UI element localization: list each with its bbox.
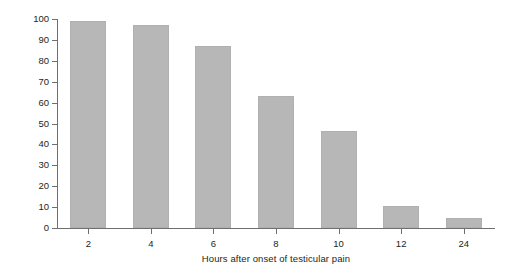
x-tick-mark xyxy=(339,229,340,234)
bar xyxy=(258,96,294,228)
y-tick-label: 60 xyxy=(38,96,49,109)
x-tick-label: 10 xyxy=(319,237,359,250)
plot-area: 0102030405060708090100 xyxy=(57,19,495,228)
bar-series xyxy=(57,19,495,228)
y-tick-label: 20 xyxy=(38,179,49,192)
y-tick-label: 30 xyxy=(38,158,49,171)
x-tick-mark xyxy=(464,229,465,234)
x-tick-label: 4 xyxy=(131,237,171,250)
x-tick-mark xyxy=(213,229,214,234)
y-tick-label: 50 xyxy=(38,117,49,130)
x-tick-mark xyxy=(151,229,152,234)
x-tick-mark xyxy=(401,229,402,234)
y-tick-label: 80 xyxy=(38,54,49,67)
x-tick-label: 24 xyxy=(444,237,484,250)
bar xyxy=(383,206,419,228)
y-tick-label: 0 xyxy=(44,221,49,234)
x-tick-mark xyxy=(88,229,89,234)
bar xyxy=(446,218,482,228)
bar xyxy=(70,21,106,228)
x-tick-label: 2 xyxy=(68,237,108,250)
bar xyxy=(133,25,169,228)
x-axis-title: Hours after onset of testicular pain xyxy=(57,253,495,264)
y-tick-mark xyxy=(52,228,57,229)
x-tick-label: 12 xyxy=(381,237,421,250)
x-tick-mark xyxy=(276,229,277,234)
y-tick-label: 100 xyxy=(33,12,49,25)
y-tick-label: 40 xyxy=(38,137,49,150)
y-tick-label: 10 xyxy=(38,200,49,213)
bar xyxy=(321,131,357,228)
bar-chart: Salvage rates (%) 0102030405060708090100… xyxy=(0,0,514,274)
x-tick-label: 6 xyxy=(193,237,233,250)
y-tick-label: 70 xyxy=(38,75,49,88)
bar xyxy=(195,46,231,228)
y-tick-label: 90 xyxy=(38,33,49,46)
x-tick-label: 8 xyxy=(256,237,296,250)
